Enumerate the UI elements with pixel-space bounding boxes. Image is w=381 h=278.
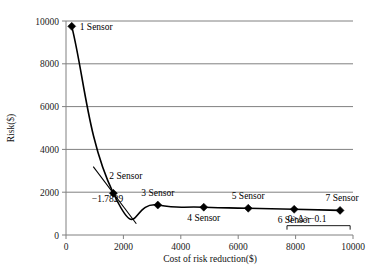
y-tick-label-8000: 8000 [40,59,59,69]
y-tick-label-0: 0 [54,231,59,241]
point-label-4-sensor: 4 Sensor [187,213,221,223]
y-axis-title: Risk($) [6,114,17,143]
point-label-1-sensor: 1 Sensor [80,22,114,32]
point-label-3-sensor: 3 Sensor [141,188,175,198]
tick-marks-group [62,21,353,239]
data-point-marker-5 [244,204,252,212]
x-tick-label-10000: 10000 [341,242,365,252]
y-tick-label-2000: 2000 [40,188,59,198]
data-point-marker-6 [290,205,298,213]
annotation-flat-slope-range: 0>Δ>−0.1 [288,214,327,224]
data-point-marker-4 [200,203,208,211]
data-point-marker-1 [68,22,76,30]
point-label-5-sensor: 5 Sensor [232,191,266,201]
x-tick-label-6000: 6000 [229,242,248,252]
x-axis-title: Cost of risk reduction($) [163,254,257,265]
annotation-tangent-slope: −1.7829 [92,194,124,204]
data-point-marker-3 [154,201,162,209]
annotations-group: −1.78290>Δ>−0.1 [92,194,350,230]
x-tick-label-2000: 2000 [114,242,133,252]
chart-container: 0200040006000800010000020004000600080001… [0,0,381,278]
x-tick-label-8000: 8000 [286,242,305,252]
gridlines-group [66,21,353,192]
point-label-2-sensor: 2 Sensor [109,171,143,181]
x-tick-label-0: 0 [64,242,69,252]
point-label-7-sensor: 7 Sensor [326,193,360,203]
y-tick-label-10000: 10000 [35,17,59,27]
data-point-marker-7 [336,206,344,214]
annotation-bracket [287,226,350,230]
y-tick-label-4000: 4000 [40,145,59,155]
x-tick-label-4000: 4000 [171,242,190,252]
risk-cost-line-chart: 0200040006000800010000020004000600080001… [0,0,381,278]
y-tick-label-6000: 6000 [40,102,59,112]
